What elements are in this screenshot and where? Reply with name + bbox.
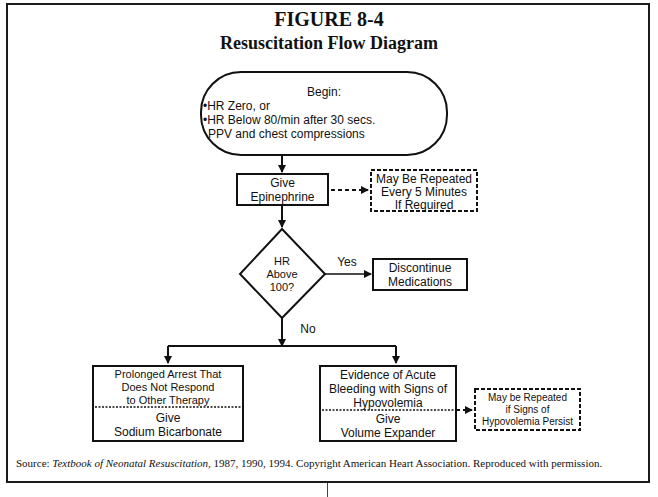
repeat-epi-line-1: May Be Repeated bbox=[371, 172, 477, 186]
bicarb-cond-2: Does Not Respond bbox=[93, 381, 243, 394]
volume-cond-1: Evidence of Acute bbox=[320, 368, 456, 382]
repeat-epi-line-3: If Required bbox=[371, 198, 477, 212]
begin-line-2: •HR Below 80/min after 30 secs. bbox=[203, 113, 447, 127]
source-prefix: Source: bbox=[16, 457, 52, 469]
repeat-volume-line-1: May be Repeated bbox=[475, 392, 580, 404]
begin-line-3: PPV and chest compressions bbox=[208, 127, 448, 141]
discontinue-line-2: Medications bbox=[373, 275, 467, 289]
discontinue-line-1: Discontinue bbox=[373, 261, 467, 275]
source-book-title: Textbook of Neonatal Resuscitation, bbox=[52, 457, 210, 469]
volume-cond-2: Bleeding with Signs of bbox=[320, 382, 456, 396]
volume-cond-3: Hypovolemia bbox=[320, 396, 456, 410]
repeat-volume-line-3: Hypovolemia Persist bbox=[475, 416, 580, 428]
decision-line-2: Above bbox=[252, 268, 312, 281]
page-divider-tick bbox=[327, 483, 328, 497]
bicarb-act-1: Give bbox=[93, 411, 243, 425]
decision-line-3: 100? bbox=[252, 281, 312, 294]
epi-line-1: Give bbox=[237, 176, 328, 190]
bicarb-cond-3: to Other Therapy bbox=[93, 394, 243, 407]
decision-line-1: HR bbox=[252, 255, 312, 268]
epi-line-2: Epinephrine bbox=[237, 190, 328, 204]
source-citation: Source: Textbook of Neonatal Resuscitati… bbox=[16, 457, 602, 469]
source-rest: 1987, 1990, 1994. Copyright American Hea… bbox=[211, 457, 602, 469]
begin-line-1: •HR Zero, or bbox=[203, 99, 447, 113]
repeat-epi-line-2: Every 5 Minutes bbox=[371, 185, 477, 199]
begin-heading: Begin: bbox=[201, 85, 447, 99]
bicarb-act-2: Sodium Bicarbonate bbox=[93, 425, 243, 439]
yes-label: Yes bbox=[332, 255, 362, 269]
bicarb-cond-1: Prolonged Arrest That bbox=[93, 368, 243, 381]
volume-act-2: Volume Expander bbox=[320, 426, 456, 440]
no-label: No bbox=[296, 322, 320, 336]
volume-act-1: Give bbox=[320, 412, 456, 426]
repeat-volume-line-2: if Signs of bbox=[475, 404, 580, 416]
